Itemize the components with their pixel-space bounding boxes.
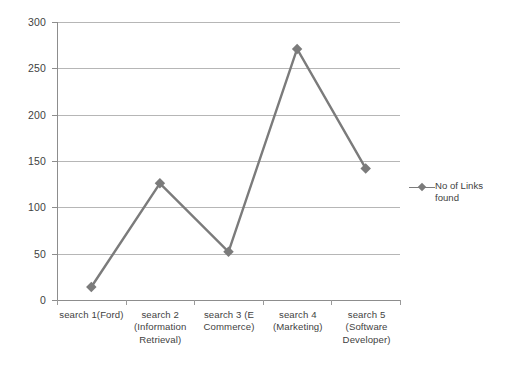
- legend-marker-icon: [409, 181, 435, 193]
- x-tick-mark-0: [57, 300, 58, 305]
- y-tick-label-250: 250: [0, 63, 46, 73]
- y-tick-label-50: 50: [0, 249, 46, 259]
- line-chart: 300 250 200 150 100 50 0 search 1(Ford) …: [0, 0, 505, 373]
- y-tick-label-0: 0: [0, 295, 46, 305]
- x-axis-line: [57, 300, 401, 301]
- y-tick-label-100: 100: [0, 202, 46, 212]
- x-tick-label-3: search 4 (Marketing): [263, 309, 332, 346]
- gridline-250: [57, 68, 400, 69]
- gridline-100: [57, 207, 400, 208]
- y-tick-mark-150: [52, 161, 57, 162]
- y-axis-line: [57, 22, 58, 301]
- x-axis-labels: search 1(Ford) search 2 (Information Ret…: [57, 309, 401, 346]
- chart-legend: No of Links found: [409, 180, 495, 203]
- y-tick-mark-50: [52, 254, 57, 255]
- gridline-50: [57, 254, 400, 255]
- gridline-150: [57, 161, 400, 162]
- gridline-300: [57, 22, 400, 23]
- x-tick-mark-5: [400, 300, 401, 305]
- x-tick-mark-3: [263, 300, 264, 305]
- x-tick-mark-4: [331, 300, 332, 305]
- x-tick-label-2: search 3 (E Commerce): [195, 309, 264, 346]
- y-tick-label-150: 150: [0, 156, 46, 166]
- x-tick-label-1: search 2 (Information Retrieval): [126, 309, 195, 346]
- y-tick-mark-300: [52, 22, 57, 23]
- y-tick-label-200: 200: [0, 110, 46, 120]
- y-tick-mark-100: [52, 207, 57, 208]
- x-tick-label-4: search 5 (Software Developer): [332, 309, 401, 346]
- x-tick-label-0: search 1(Ford): [57, 309, 126, 346]
- y-tick-mark-200: [52, 115, 57, 116]
- y-tick-mark-250: [52, 68, 57, 69]
- diamond-marker-icon: [418, 182, 426, 190]
- y-tick-label-300: 300: [0, 17, 46, 27]
- plot-area: [57, 22, 400, 300]
- legend-label: No of Links found: [435, 180, 495, 203]
- x-tick-mark-2: [194, 300, 195, 305]
- x-tick-mark-1: [126, 300, 127, 305]
- gridline-200: [57, 115, 400, 116]
